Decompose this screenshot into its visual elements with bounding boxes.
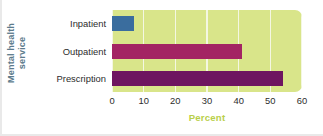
category-label-outpatient: Outpatient	[28, 46, 106, 57]
bar-chart: Mental health service InpatientOutpatien…	[0, 0, 323, 136]
bar-outpatient	[112, 44, 242, 59]
plot-area	[112, 10, 302, 92]
category-label-inpatient: Inpatient	[28, 18, 106, 29]
x-axis-title: Percent	[112, 112, 302, 123]
x-axis-tick-labels: 0102030405060	[0, 95, 323, 109]
gridline-60	[301, 10, 302, 92]
x-tick-label-30: 30	[192, 95, 222, 106]
x-tick-label-10: 10	[129, 95, 159, 106]
x-tick-label-40: 40	[224, 95, 254, 106]
y-axis-title-line-2: service	[17, 23, 28, 83]
bar-inpatient	[112, 16, 134, 31]
category-label-prescription: Prescription	[28, 73, 106, 84]
x-tick-label-20: 20	[160, 95, 190, 106]
x-tick-label-60: 60	[287, 95, 317, 106]
category-axis-labels: InpatientOutpatientPrescription	[30, 10, 110, 92]
x-tick-label-50: 50	[255, 95, 285, 106]
page-scan-edge-bottom	[0, 134, 323, 136]
y-axis-title-line-1: Mental health	[6, 23, 17, 83]
bar-prescription	[112, 71, 283, 86]
x-tick-label-0: 0	[97, 95, 127, 106]
